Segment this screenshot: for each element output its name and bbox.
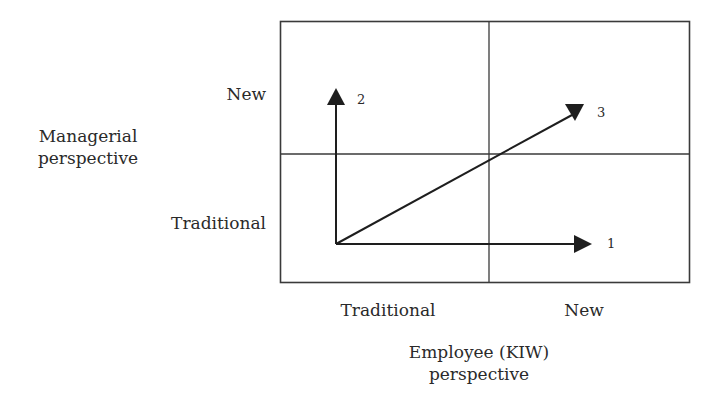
matrix-diagram: 2 3 1 New Traditional Managerial perspec… [0, 0, 721, 400]
arrow-1 [336, 235, 592, 253]
y-axis-title-line1: Managerial [30, 126, 146, 147]
arrow-1-label: 1 [607, 236, 615, 251]
arrow-3 [336, 104, 584, 244]
arrow-3-shaft [336, 115, 572, 244]
y-tick-new: New [227, 84, 267, 105]
arrow-1-head-icon [574, 235, 592, 253]
arrow-2 [327, 88, 345, 244]
arrow-2-head-icon [327, 88, 345, 105]
x-axis-title-line2: perspective [388, 364, 570, 385]
x-tick-new: New [544, 300, 624, 321]
y-tick-traditional: Traditional [171, 213, 266, 234]
x-axis-title-line1: Employee (KIW) [388, 342, 570, 363]
y-axis-title-line2: perspective [30, 148, 146, 169]
x-tick-traditional: Traditional [318, 300, 458, 321]
arrow-3-head-icon [565, 104, 584, 121]
matrix-graphic [0, 0, 721, 400]
arrow-3-label: 3 [597, 105, 605, 120]
arrow-2-label: 2 [357, 92, 365, 107]
